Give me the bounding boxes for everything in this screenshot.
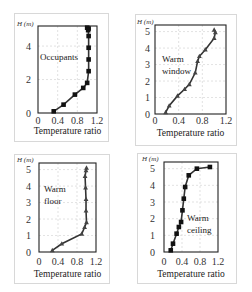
square-marker [86,57,91,62]
square-marker [195,166,200,171]
square-marker [174,231,179,236]
chart-occupants: 02400.40.81.2H (m)Temperature ratioOccup… [16,20,103,136]
y-tick-label: 3 [145,59,150,70]
x-tick-label: 1.2 [91,115,104,126]
y-tick-label: 3 [150,197,155,208]
square-marker [208,165,213,170]
square-marker [61,102,66,107]
triangle-marker [82,225,87,229]
square-marker [168,248,173,253]
x-tick-label: 0 [37,256,42,267]
y-tick-label: 1 [26,230,31,241]
x-tick-label: 0.4 [51,115,64,126]
x-tick-label: 0.8 [71,115,84,126]
y-tick-label: 2 [26,74,31,85]
series-markers [51,25,91,113]
triangle-marker [84,197,89,201]
square-marker [186,173,191,178]
square-marker [182,196,187,201]
x-tick-label: 0.4 [52,256,65,267]
y-tick-label: 4 [26,41,31,52]
square-marker [171,241,176,246]
plot-frame [39,163,96,252]
y-tick-label: 5 [26,164,31,175]
square-marker [179,220,184,225]
y-tick-label: 2 [145,76,150,87]
y-tick-label: 0 [26,108,31,119]
y-axis-label: H (m) [141,155,159,163]
x-tick-label: 0 [153,115,158,126]
y-tick-label: 1 [145,92,150,103]
x-tick-label: 0.8 [71,256,84,267]
chart-warm-ceiling: 01234500.40.81.2H (m)Temperature ratioWa… [141,155,225,279]
series-line [171,167,210,250]
y-tick-label: 2 [150,213,155,224]
y-tick-label: 5 [150,163,155,174]
square-marker [81,86,86,91]
square-marker [85,25,90,30]
y-axis-label: H (m) [16,20,34,28]
chart-warm-window: 01234500.40.81.2H (m)Temperature ratioWa… [136,18,232,138]
square-marker [180,208,185,213]
gridlines [39,163,96,252]
y-axis-label: H (m) [16,156,34,164]
y-tick-label: 4 [145,43,150,54]
series-line [54,28,89,112]
y-tick-label: 0 [26,247,31,258]
triangle-marker [83,174,88,178]
series-annotation: Warmfloor [44,184,66,206]
triangle-marker [84,165,89,169]
x-tick-label: 0 [162,256,167,267]
square-marker [85,81,90,86]
square-marker [177,225,182,230]
x-axis-title: Temperature ratio [34,269,102,279]
square-marker [183,185,188,190]
x-tick-label: 0.8 [194,256,207,267]
triangle-marker [195,59,200,63]
square-marker [86,45,91,50]
series-line [52,168,86,250]
y-tick-label: 1 [150,230,155,241]
series-annotation: Occupants [40,52,78,62]
x-tick-label: 0.4 [172,115,185,126]
triangle-marker [84,220,89,224]
y-tick-label: 0 [150,247,155,258]
square-marker [51,109,56,114]
triangle-marker [84,208,89,212]
y-tick-label: 2 [26,214,31,225]
x-tick-label: 1.2 [220,115,233,126]
square-marker [73,92,78,97]
x-axis-title: Temperature ratio [157,128,225,138]
y-axis-label: H (m) [136,18,154,26]
x-tick-label: 0.4 [176,256,189,267]
triangle-marker [212,36,217,40]
x-tick-label: 0.8 [196,115,209,126]
y-tick-label: 3 [26,197,31,208]
series-annotation: Warmwindow [162,54,192,76]
triangle-marker [193,70,198,74]
x-axis-title: Temperature ratio [157,269,225,279]
charts-canvas: 02400.40.81.2H (m)Temperature ratioOccup… [0,0,252,292]
triangle-marker [212,27,217,31]
square-marker [86,69,91,74]
x-tick-label: 1.2 [212,256,225,267]
x-axis-title: Temperature ratio [34,126,102,136]
y-tick-label: 4 [150,180,155,191]
x-tick-label: 0 [36,115,41,126]
series-annotation: Warmceiling [187,213,212,235]
y-tick-label: 5 [145,26,150,37]
y-tick-label: 0 [145,109,150,120]
chart-warm-floor: 01234500.40.81.2H (m)Temperature ratioWa… [16,156,102,279]
y-tick-label: 4 [26,181,31,192]
x-tick-label: 1.2 [90,256,103,267]
square-marker [86,34,91,39]
